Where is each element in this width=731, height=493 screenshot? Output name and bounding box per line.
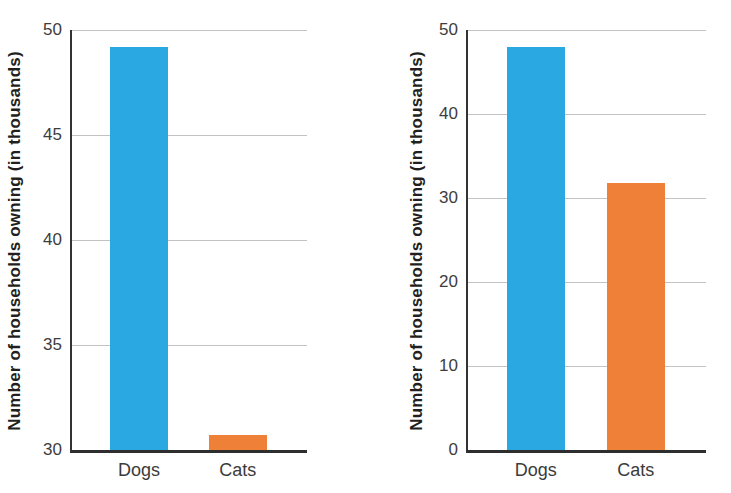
y-axis-title: Number of households owning (in thousand… [407, 9, 427, 473]
figure-dual-bar-charts: Number of households owning (in thousand… [0, 0, 731, 493]
gridline [468, 30, 706, 31]
y-tick-label: 20 [406, 271, 458, 293]
gridline [468, 198, 706, 199]
y-tick-label: 0 [406, 439, 458, 461]
x-category-label: Cats [591, 459, 681, 481]
y-tick-label: 40 [406, 103, 458, 125]
gridline [468, 282, 706, 283]
cats-bar [607, 183, 665, 450]
dogs-bar [507, 47, 565, 450]
plot-area [466, 30, 706, 453]
x-category-label: Dogs [491, 459, 581, 481]
gridline [468, 366, 706, 367]
y-tick-label: 10 [406, 355, 458, 377]
gridline [468, 114, 706, 115]
y-tick-label: 50 [406, 19, 458, 41]
chart-full-axis: Number of households owning (in thousand… [0, 0, 731, 493]
y-tick-label: 30 [406, 187, 458, 209]
